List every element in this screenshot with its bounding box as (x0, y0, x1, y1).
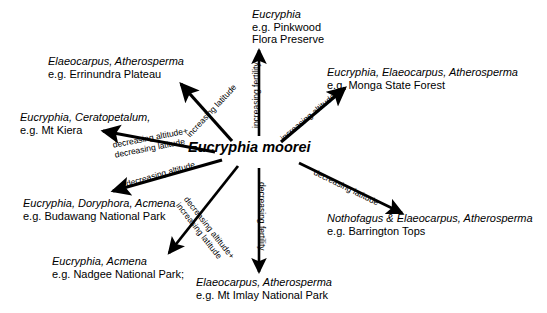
node-imlay-example: e.g. Mt Imlay National Park (196, 289, 332, 302)
node-monga-example: e.g. Monga State Forest (327, 79, 518, 92)
node-pinkwood-example-cont: Flora Preserve (252, 33, 324, 46)
node-barrington: Nothofagus & Elaeocarpus, Atherosperma e… (327, 212, 533, 237)
node-monga: Eucryphia, Elaeocarpus, Atherosperma e.g… (327, 66, 518, 91)
node-monga-taxa: Eucryphia, Elaeocarpus, Atherosperma (327, 66, 518, 79)
node-nadgee-example: e.g. Nadgee National Park; (52, 268, 184, 281)
node-errinundra-taxa: Elaeocarpus, Atherosperma (48, 55, 184, 68)
node-kiera: Eucryphia, Ceratopetalum, e.g. Mt Kiera (20, 111, 150, 136)
ecology-radial-diagram: Eucryphia moorei Eucryphia e.g. Pinkwood… (0, 0, 547, 313)
arrow-label-down: decreasing fertility (257, 182, 267, 251)
node-nadgee: Eucryphia, Acmena e.g. Nadgee National P… (52, 255, 184, 280)
node-imlay-taxa: Elaeocarpus, Atherosperma (196, 276, 332, 289)
node-barrington-taxa: Nothofagus & Elaeocarpus, Atherosperma (327, 212, 533, 225)
node-errinundra: Elaeocarpus, Atherosperma e.g. Errinundr… (48, 55, 184, 80)
node-budawang: Eucryphia, Doryphora, Acmena e.g. Budawa… (23, 197, 175, 222)
node-budawang-taxa: Eucryphia, Doryphora, Acmena (23, 197, 175, 210)
node-budawang-example: e.g. Budawang National Park (23, 210, 175, 223)
node-imlay: Elaeocarpus, Atherosperma e.g. Mt Imlay … (196, 276, 332, 301)
center-taxon-label: Eucryphia moorei (188, 139, 310, 155)
node-errinundra-example: e.g. Errinundra Plateau (48, 68, 184, 81)
node-nadgee-taxa: Eucryphia, Acmena (52, 255, 184, 268)
arrow-label-down-line1: decreasing fertility (257, 182, 267, 251)
arrow-label-up: increasing fertility (252, 62, 262, 128)
node-kiera-taxa: Eucryphia, Ceratopetalum, (20, 111, 150, 124)
arrow-label-up-line1: increasing fertility (252, 62, 262, 128)
node-pinkwood-taxa: Eucryphia (252, 8, 324, 21)
node-pinkwood: Eucryphia e.g. Pinkwood Flora Preserve (252, 8, 324, 46)
node-barrington-example: e.g. Barrington Tops (327, 225, 533, 238)
node-kiera-example: e.g. Mt Kiera (20, 124, 150, 137)
node-pinkwood-example: e.g. Pinkwood (252, 21, 324, 34)
